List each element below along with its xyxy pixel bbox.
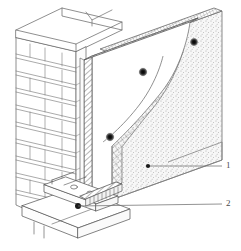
figure-container: 1 2 [0,0,241,251]
anchor-fastener [139,68,148,77]
callout-label-1: 1 [226,161,231,170]
anchor-fastener [190,38,198,46]
callout-label-2: 2 [226,199,231,208]
callout-leader-1-dot [146,164,150,168]
anchor-fastener [106,133,115,142]
wall-assembly-drawing [0,0,241,251]
